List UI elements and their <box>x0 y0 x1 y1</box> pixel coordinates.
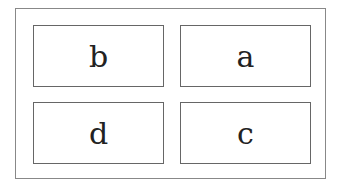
cell-label: b <box>89 39 108 74</box>
cell-bottom-left: d <box>33 102 164 164</box>
cell-label: c <box>237 116 254 151</box>
cell-label: a <box>237 39 255 74</box>
cell-top-right: a <box>180 25 311 87</box>
cell-label: d <box>89 116 108 151</box>
cell-bottom-right: c <box>180 102 311 164</box>
cell-top-left: b <box>33 25 164 87</box>
